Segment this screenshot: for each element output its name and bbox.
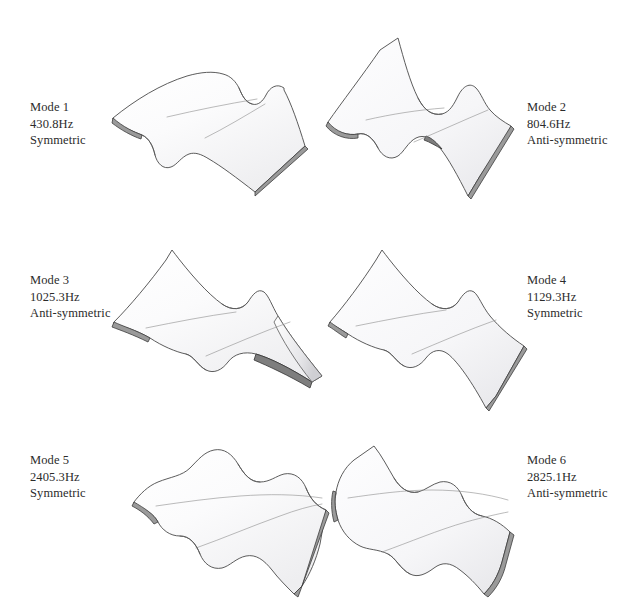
- mode-1-name: Mode 1: [30, 99, 86, 116]
- mode-6-label: Mode 6 2825.1Hz Anti-symmetric: [527, 452, 608, 502]
- mode-2-symmetry: Anti-symmetric: [527, 132, 608, 149]
- mode-5-frequency: 2405.3Hz: [30, 469, 86, 486]
- mode-2-frequency: 804.6Hz: [527, 116, 608, 133]
- mode-2-label: Mode 2 804.6Hz Anti-symmetric: [527, 99, 608, 149]
- mode-1-frequency: 430.8Hz: [30, 116, 86, 133]
- mode-6-frequency: 2825.1Hz: [527, 469, 608, 486]
- mode-5-label: Mode 5 2405.3Hz Symmetric: [30, 452, 86, 502]
- mode-3-frequency: 1025.3Hz: [30, 289, 111, 306]
- mode-6-shape: [330, 428, 530, 598]
- mode-1-symmetry: Symmetric: [30, 132, 86, 149]
- mode-3-name: Mode 3: [30, 272, 111, 289]
- mode-3-label: Mode 3 1025.3Hz Anti-symmetric: [30, 272, 111, 322]
- mode-1-shape: [105, 28, 320, 203]
- mode-3-shape: [110, 236, 345, 396]
- mode-6-symmetry: Anti-symmetric: [527, 485, 608, 502]
- mode-2-name: Mode 2: [527, 99, 608, 116]
- mode-5-name: Mode 5: [30, 452, 86, 469]
- mode-2-shape: [318, 24, 523, 204]
- mode-6-name: Mode 6: [527, 452, 608, 469]
- mode-5-symmetry: Symmetric: [30, 485, 86, 502]
- mode-5-shape: [130, 428, 345, 598]
- mode-4-shape: [326, 236, 536, 411]
- mode-shape-figure: Mode 1 430.8Hz Symmetric Mode 2 804.6Hz …: [0, 0, 636, 607]
- mode-1-label: Mode 1 430.8Hz Symmetric: [30, 99, 86, 149]
- mode-3-symmetry: Anti-symmetric: [30, 305, 111, 322]
